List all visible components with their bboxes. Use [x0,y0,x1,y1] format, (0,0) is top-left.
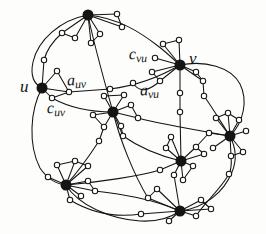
satellite-node [118,123,123,128]
satellite-node [190,163,195,168]
satellite-node [130,80,135,85]
satellite-node [128,102,133,107]
node-label-v: v [189,50,197,67]
satellite-node [201,93,206,98]
satellite-node [96,138,101,143]
subscript-uv: uv [75,77,86,92]
satellite-node [240,149,245,154]
edge-outer-right [180,63,244,136]
satellite-node [177,109,182,114]
satellite-node [107,86,112,91]
hub-node-v [175,60,186,71]
satellite-node [152,55,157,60]
satellite-node [176,37,181,42]
satellite-node [72,158,77,163]
hub-node-center [108,107,119,118]
graph-canvas [0,0,266,234]
edge-label-c-vu: cvu [129,46,147,66]
satellite-node [114,11,119,16]
edge-center-botleft [66,141,99,185]
satellite-node [163,145,168,150]
edge-b-sat57 [141,211,180,214]
satellite-node [135,115,140,120]
satellite-node [90,112,95,117]
hub-node-botleft [61,180,72,191]
satellite-node [88,40,93,45]
edge-label-c-uv: cuv [47,100,65,120]
satellite-node [200,78,205,83]
satellite-node [45,174,50,179]
satellite-node [41,57,46,62]
satellite-node [67,197,72,202]
satellite-node [85,178,90,183]
subscript-vu: vu [136,51,147,65]
satellite-node [121,92,126,97]
satellite-node [180,177,185,182]
satellite-node [193,213,198,218]
satellite-node [171,172,176,177]
satellite-node [236,117,241,122]
satellite-node [166,218,171,223]
hub-node-top [83,10,94,21]
edge-label-a-uv: auv [67,72,87,92]
satellite-node [54,68,59,73]
satellite-node [92,188,97,193]
satellite-node [210,145,215,150]
hub-node-layer [37,10,236,217]
satellite-node [225,110,230,115]
hub-node-bottom [175,206,186,217]
satellite-node [101,124,106,129]
satellite-node [208,206,213,211]
hub-node-right [225,131,236,142]
satellite-node [157,167,162,172]
satellite-node [226,171,231,176]
edge-bl-bottom2 [95,191,180,211]
graph-figure: u v auv cuv avu cvu [0,0,266,234]
hub-node-u [37,83,48,94]
satellite-node [72,35,77,40]
satellite-node [193,144,198,149]
satellite-node [78,193,83,198]
satellite-node [228,153,233,158]
satellite-node [145,195,150,200]
satellite-node [97,31,102,36]
edge-label-a-vu: avu [140,82,160,102]
satellite-node [213,115,218,120]
satellite-node [54,162,59,167]
satellite-node [85,163,90,168]
satellite-node [168,134,173,139]
satellite-node [59,30,64,35]
node-label-u: u [20,78,29,95]
satellite-node [101,93,106,98]
satellite-node [149,69,154,74]
edge-botleft-bottom [70,200,141,215]
subscript-vu: vu [148,87,159,102]
satellite-node [177,90,182,95]
satellite-node [154,186,159,191]
satellite-node [193,69,198,74]
edge-v-midlow [180,112,181,161]
satellite-node [160,41,165,46]
satellite-node [198,197,203,202]
edge-top-center [88,15,113,112]
satellite-node [138,211,143,216]
satellite-node [201,151,206,156]
satellite-node [120,133,125,138]
subscript-uv: uv [54,105,65,119]
satellite-node [206,130,211,135]
satellite-node [243,128,248,133]
satellite-node [119,24,124,29]
hub-node-midlow [176,156,187,167]
